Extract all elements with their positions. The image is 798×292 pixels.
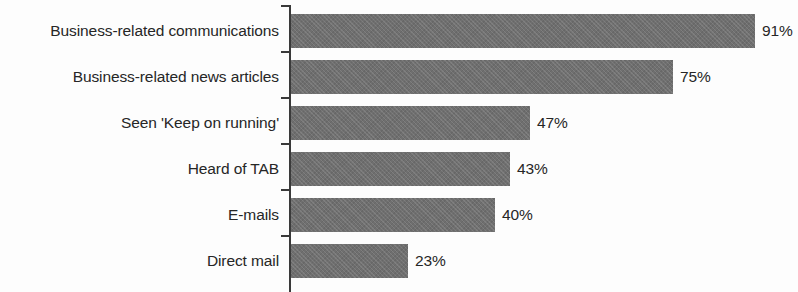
category-label: Business-related news articles xyxy=(73,60,279,94)
value-label: 91% xyxy=(762,14,793,48)
bar-segment xyxy=(291,14,755,48)
value-label: 43% xyxy=(517,152,548,186)
axis-tick xyxy=(281,5,289,7)
bar-segment xyxy=(291,60,673,94)
bar-segment xyxy=(291,106,530,140)
bar-segment xyxy=(291,198,495,232)
bar-row: Business-related news articles 75% xyxy=(0,60,798,94)
axis-tick xyxy=(281,189,289,191)
value-label: 40% xyxy=(502,198,533,232)
category-label: Seen 'Keep on running' xyxy=(121,106,279,140)
bar-chart: Business-related communications 91% Busi… xyxy=(0,0,798,292)
axis-tick xyxy=(281,143,289,145)
plot-area: Business-related communications 91% Busi… xyxy=(0,0,798,292)
value-label: 23% xyxy=(415,244,446,278)
bar-row: Heard of TAB 43% xyxy=(0,152,798,186)
value-label: 75% xyxy=(680,60,711,94)
bar-segment xyxy=(291,152,510,186)
bar-row: Direct mail 23% xyxy=(0,244,798,278)
axis-tick xyxy=(281,51,289,53)
bar-segment xyxy=(291,244,408,278)
category-label: Heard of TAB xyxy=(188,152,279,186)
axis-tick xyxy=(281,235,289,237)
bar-row: E-mails 40% xyxy=(0,198,798,232)
category-label: Direct mail xyxy=(207,244,279,278)
category-label: E-mails xyxy=(228,198,279,232)
category-label: Business-related communications xyxy=(50,14,279,48)
axis-tick xyxy=(281,97,289,99)
value-label: 47% xyxy=(537,106,568,140)
bar-row: Business-related communications 91% xyxy=(0,14,798,48)
bar-row: Seen 'Keep on running' 47% xyxy=(0,106,798,140)
